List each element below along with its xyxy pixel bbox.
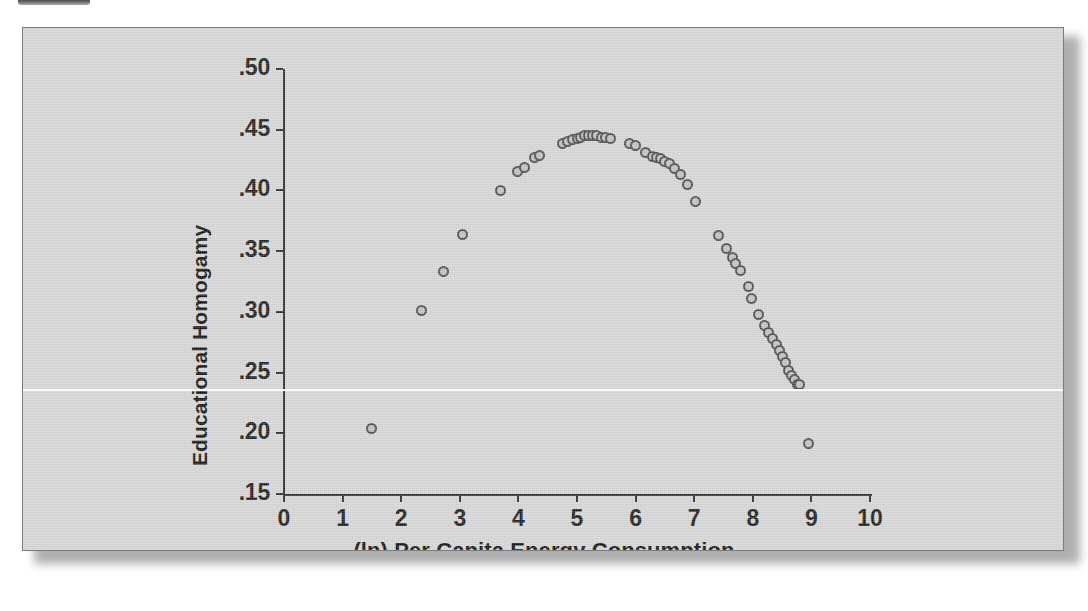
y-axis-line — [283, 69, 285, 496]
scatter-point — [605, 133, 616, 144]
x-axis-tick — [283, 495, 285, 502]
y-axis-tick-label: .30 — [202, 297, 270, 324]
x-axis-title: (ln) Per Capita Energy Consumption — [23, 538, 1064, 551]
x-axis-tick-label: 10 — [840, 505, 900, 532]
scatter-point — [794, 379, 805, 390]
y-axis-tick-label: .25 — [202, 358, 270, 385]
scatter-point — [438, 266, 449, 277]
y-axis-tick — [276, 432, 283, 434]
x-axis-tick-label: 5 — [547, 505, 607, 532]
x-axis-tick — [810, 495, 812, 502]
figure-panel: .50.45.40.35.30.25.20.15012345678910Educ… — [22, 27, 1064, 551]
x-axis-tick-label: 0 — [254, 505, 314, 532]
x-axis-tick — [517, 495, 519, 502]
y-axis-tick — [276, 129, 283, 131]
scatter-point — [682, 179, 693, 190]
y-axis-tick — [276, 493, 283, 495]
scatter-point — [753, 309, 764, 320]
x-axis-tick — [342, 495, 344, 502]
y-axis-tick — [276, 311, 283, 313]
x-axis-tick-label: 3 — [430, 505, 490, 532]
scatter-point — [690, 196, 701, 207]
cropped-top-fragment — [18, 0, 90, 5]
y-axis-tick — [276, 68, 283, 70]
x-axis-tick-label: 1 — [313, 505, 373, 532]
x-axis-tick — [869, 495, 871, 502]
scatter-point — [743, 281, 754, 292]
scatter-point — [519, 162, 530, 173]
x-axis-tick-label: 9 — [781, 505, 841, 532]
x-axis-tick — [459, 495, 461, 502]
y-axis-tick-label: .20 — [202, 418, 270, 445]
scatter-point — [803, 438, 814, 449]
y-axis-tick-label: .15 — [202, 479, 270, 506]
x-axis-tick — [635, 495, 637, 502]
scatter-point — [534, 150, 545, 161]
x-axis-tick-label: 6 — [606, 505, 666, 532]
scatter-point — [746, 293, 757, 304]
y-axis-tick-label: .45 — [202, 115, 270, 142]
scatter-point — [735, 265, 746, 276]
scatter-plot-area: .50.45.40.35.30.25.20.15012345678910Educ… — [23, 28, 1064, 551]
x-axis-tick-label: 8 — [723, 505, 783, 532]
y-axis-title: Educational Homogamy — [188, 225, 212, 466]
y-axis-tick — [276, 250, 283, 252]
scatter-point — [713, 230, 724, 241]
y-axis-tick — [276, 189, 283, 191]
y-axis-tick — [276, 372, 283, 374]
y-axis-tick-label: .50 — [202, 54, 270, 81]
scatter-point — [416, 305, 427, 316]
y-axis-tick-label: .35 — [202, 236, 270, 263]
x-axis-tick-label: 7 — [664, 505, 724, 532]
y-axis-tick-label: .40 — [202, 175, 270, 202]
x-axis-tick — [752, 495, 754, 502]
scatter-point — [675, 169, 686, 180]
x-axis-tick-label: 2 — [371, 505, 431, 532]
scatter-point — [457, 229, 468, 240]
x-axis-tick — [693, 495, 695, 502]
scatter-point — [495, 185, 506, 196]
x-axis-tick — [400, 495, 402, 502]
scatter-point — [630, 140, 641, 151]
x-axis-tick — [576, 495, 578, 502]
scatter-point — [366, 423, 377, 434]
x-axis-tick-label: 4 — [488, 505, 548, 532]
